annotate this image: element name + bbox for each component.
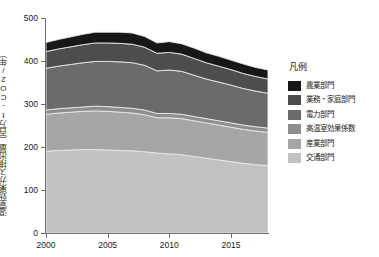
legend-label: 業務・家庭部門 [306, 95, 355, 105]
legend-swatch [288, 95, 301, 105]
chart-figure: 温室効果ガス排出量（百万t-CO2/年） 0100200300400500 20… [0, 0, 379, 257]
x-axis-line [45, 233, 269, 234]
legend-item[interactable]: 電力部門 [288, 109, 378, 120]
y-tick-label: 200 [0, 142, 38, 152]
legend-label: 農業部門 [306, 81, 334, 91]
plot-area [46, 18, 268, 233]
legend-item[interactable]: 産業部門 [288, 138, 378, 149]
legend-label: 電力部門 [306, 110, 334, 120]
legend: 凡例 農業部門業務・家庭部門電力部門高温室効果係数産業部門交通部門 [288, 60, 378, 167]
x-tick-mark [108, 233, 109, 238]
x-tick-mark [231, 233, 232, 238]
legend-label: 産業部門 [306, 139, 334, 149]
legend-item[interactable]: 高温室効果係数 [288, 124, 378, 135]
legend-item[interactable]: 業務・家庭部門 [288, 95, 378, 106]
legend-title: 凡例 [289, 60, 378, 73]
y-tick-label: 300 [0, 99, 38, 109]
x-tick-label: 2010 [149, 240, 189, 250]
x-tick-label: 2015 [211, 240, 251, 250]
legend-swatch [288, 139, 301, 149]
x-tick-mark [169, 233, 170, 238]
legend-item[interactable]: 交通部門 [288, 153, 378, 164]
legend-swatch [288, 110, 301, 120]
legend-item[interactable]: 農業部門 [288, 80, 378, 91]
y-tick-label: 100 [0, 185, 38, 195]
legend-items: 農業部門業務・家庭部門電力部門高温室効果係数産業部門交通部門 [288, 80, 378, 164]
x-tick-label: 2005 [88, 240, 128, 250]
y-tick-label: 400 [0, 56, 38, 66]
x-tick-mark [46, 233, 47, 238]
x-tick-label: 2000 [26, 240, 66, 250]
legend-label: 交通部門 [306, 153, 334, 163]
stacked-area-series [46, 18, 268, 233]
legend-label: 高温室効果係数 [306, 124, 355, 134]
legend-swatch [288, 153, 301, 163]
y-tick-label: 500 [0, 13, 38, 23]
y-tick-label: 0 [0, 228, 38, 238]
legend-swatch [288, 124, 301, 134]
legend-swatch [288, 81, 301, 91]
